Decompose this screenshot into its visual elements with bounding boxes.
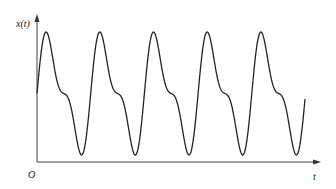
y-axis-label: x(t) [15, 18, 31, 30]
signal-waveform-figure: x(t) O t [0, 0, 336, 189]
x-axis-arrow-icon [313, 160, 321, 165]
y-axis-arrow-icon [35, 14, 40, 22]
origin-label: O [28, 169, 35, 180]
signal-curve [37, 32, 305, 155]
x-axis-label: t [313, 171, 316, 182]
